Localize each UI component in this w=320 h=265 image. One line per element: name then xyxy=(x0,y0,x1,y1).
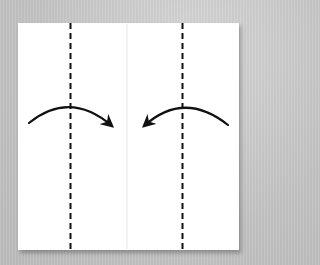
fold-diagram xyxy=(0,0,249,265)
right-fold-arrow-icon xyxy=(144,108,228,126)
